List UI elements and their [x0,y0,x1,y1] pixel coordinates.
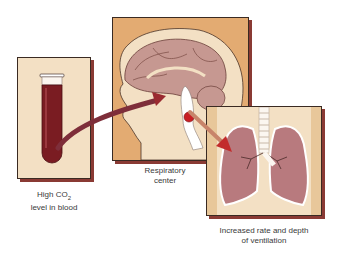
blood-caption-line1: High CO [37,190,68,199]
co2-subscript: 2 [68,195,71,201]
respiratory-center-dot [184,112,194,122]
blood-panel [17,57,91,179]
lungs-icon [207,107,321,215]
lungs-caption-line1: Increased rate and depth [196,226,332,236]
blood-caption-line2: level in blood [8,203,100,213]
brain-caption-line2: center [125,176,205,186]
brain-caption: Respiratory center [125,166,205,186]
lungs-panel [206,106,322,216]
brain-caption-line1: Respiratory [125,166,205,176]
blood-caption: High CO2 level in blood [8,190,100,213]
lungs-caption-line2: of ventilation [196,236,332,246]
lungs-caption: Increased rate and depth of ventilation [196,226,332,246]
test-tube-blood-icon [18,58,90,178]
